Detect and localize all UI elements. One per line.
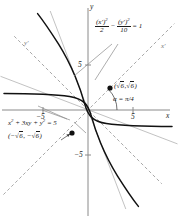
- pt-lower-radical-1: √6: [15, 133, 23, 140]
- angle-label: α = π/4: [113, 96, 134, 103]
- plot-canvas: [0, 0, 178, 220]
- rotated-eq-den2: 10: [117, 26, 131, 34]
- point-label-upper: (√6,√6): [114, 83, 137, 90]
- rotated-eq-num1: (x′): [96, 18, 105, 26]
- orig-eq-equals: = 5: [47, 119, 57, 127]
- rotated-eq-fraction-2: (y′)2 10: [117, 19, 131, 34]
- rotated-eq-equals: = 1: [132, 22, 142, 30]
- point-label-lower: (−√6, −√6): [8, 133, 42, 140]
- leader-line-point-lower: [61, 134, 70, 140]
- axis-label-x-prime: x′: [161, 43, 166, 50]
- original-equation-label: x2 + 3xy + y2 = 5: [8, 120, 57, 127]
- rotated-equation-label: (x′)2 2 − (y′)2 10 = 1: [95, 19, 142, 34]
- figure-rotated-conic: y x −5 5 5 −5 y′ x′ (x′)2 2 − (y′)2 10 =…: [0, 0, 178, 220]
- rotated-eq-num2-exp: 2: [127, 17, 129, 22]
- rotated-eq-fraction-1: (x′)2 2: [95, 19, 109, 34]
- orig-eq-y-exp: 2: [43, 118, 45, 123]
- x-tick-label-pos5: 5: [131, 113, 135, 121]
- pt-upper-close: ): [134, 82, 136, 90]
- pt-lower-comma: , −: [23, 132, 31, 140]
- y-tick-label-pos5: 5: [78, 61, 82, 69]
- orig-eq-x-exp: 2: [11, 118, 13, 123]
- axis-label-y-prime: y′: [24, 40, 29, 47]
- rotated-eq-den1: 2: [95, 26, 109, 34]
- y-tick-label-neg5: −5: [74, 151, 83, 159]
- rotated-eq-num1-exp: 2: [105, 17, 107, 22]
- x-axis-label: x: [166, 112, 169, 120]
- rotated-eq-minus: −: [110, 22, 115, 30]
- y-axis-label: y: [90, 3, 93, 11]
- rotated-eq-num2: (y′): [118, 18, 127, 26]
- pt-lower-close: ): [40, 132, 42, 140]
- point-marker-upper: [107, 85, 112, 90]
- orig-eq-middle: + 3xy +: [15, 119, 38, 127]
- pt-lower-open: (−: [8, 132, 15, 140]
- pt-lower-radical-2: √6: [31, 133, 39, 140]
- point-marker-lower: [69, 130, 74, 135]
